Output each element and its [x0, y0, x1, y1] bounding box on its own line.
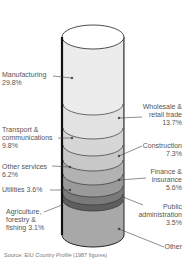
source-prefix: Source: — [4, 252, 24, 258]
label-text: insurance — [150, 176, 182, 184]
label-text: Other — [164, 243, 182, 251]
label-text: Agriculture, — [6, 208, 44, 216]
label-other-services: Other services 6.2% — [2, 163, 47, 179]
label-transport: Transport & communications 9.8% — [2, 126, 53, 150]
label-value: 5.6% — [150, 184, 182, 192]
label-text: Wholesale & — [143, 103, 182, 111]
label-text: Manufacturing — [2, 71, 46, 79]
label-text: communications — [2, 134, 53, 142]
label-public-admin: Public administration 3.5% — [138, 203, 182, 227]
label-value: 13.7% — [143, 119, 182, 127]
label-text: Public — [138, 203, 182, 211]
label-text: Finance & — [150, 168, 182, 176]
label-other: Other — [164, 243, 182, 251]
label-utilities: Utilities 3.6% — [2, 186, 42, 194]
label-text: Other services — [2, 163, 47, 171]
source-note: Source: EIU Country Profile (1987 figure… — [4, 252, 107, 258]
label-text: retail trade — [143, 111, 182, 119]
source-suffix: (1987 figures) — [72, 252, 107, 258]
source-title: Country Profile — [35, 252, 71, 258]
label-manufacturing: Manufacturing 29.8% — [2, 71, 46, 87]
label-text: forestry & — [6, 216, 44, 224]
label-text: Utilities 3.6% — [2, 186, 42, 194]
label-value: 29.8% — [2, 79, 46, 87]
label-text: administration — [138, 211, 182, 219]
label-value: 7.3% — [143, 150, 182, 158]
source-publisher: EIU — [24, 252, 35, 258]
label-value: 6.2% — [2, 171, 47, 179]
label-value: fishing 3.1% — [6, 224, 44, 232]
label-wholesale: Wholesale & retail trade 13.7% — [143, 103, 182, 127]
label-value: 3.5% — [138, 219, 182, 227]
label-finance: Finance & insurance 5.6% — [150, 168, 182, 192]
label-value: 9.8% — [2, 142, 53, 150]
label-agriculture: Agriculture, forestry & fishing 3.1% — [6, 208, 44, 232]
label-text: Construction — [143, 142, 182, 150]
label-text: Transport & — [2, 126, 53, 134]
label-construction: Construction 7.3% — [143, 142, 182, 158]
